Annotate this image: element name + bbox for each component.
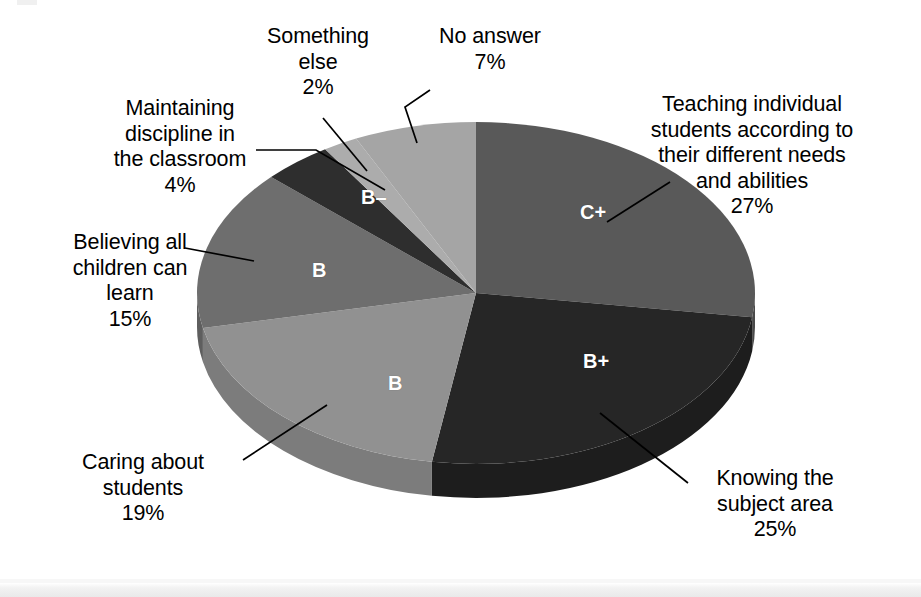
callout-teaching-individual: Teaching individual students according t… [602, 92, 902, 220]
pie-slice-knowing [432, 293, 752, 464]
callout-believing-all-children: Believing all children can learn 15% [30, 230, 230, 332]
callout-caring-about-students: Caring about students 19% [28, 450, 258, 527]
callout-maintaining-discipline: Maintaining discipline in the classroom … [55, 96, 305, 198]
pie-chart-figure: Maintaining discipline in the classroom … [0, 0, 921, 597]
callout-something-else: Something else 2% [228, 24, 408, 101]
callout-knowing-subject-area: Knowing the subject area 25% [660, 466, 890, 543]
callout-no-answer: No answer 7% [400, 24, 580, 75]
scan-band-lower [0, 583, 921, 597]
